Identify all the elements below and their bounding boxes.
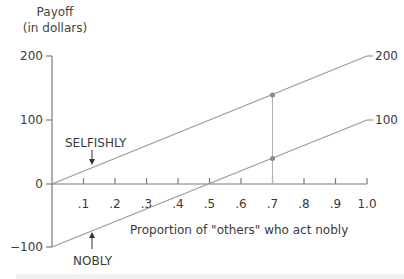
y-tick-label: 200: [20, 49, 43, 63]
x-tick-label: .8: [298, 197, 309, 211]
bottom-divider: [16, 274, 404, 279]
y-tick-label: 100: [20, 113, 43, 127]
nobly-point: [270, 156, 275, 161]
selfishly-label: SELFISHLY: [65, 136, 127, 150]
x-tick-label: .4: [172, 197, 183, 211]
nobly-end-label: 100: [375, 113, 398, 127]
x-tick-label: .7: [267, 197, 278, 211]
selfishly-point: [270, 93, 275, 98]
x-axis-title: Proportion of "others" who act nobly: [130, 223, 348, 237]
x-tick-label: .9: [330, 197, 341, 211]
chart-plot: 200 100 0 −100 .1 .2 .3 .4 .5 .6 .7 .8 .…: [0, 0, 404, 279]
selfishly-end-label: 200: [375, 49, 398, 63]
x-tick-label: 1.0: [357, 197, 376, 211]
x-tick-label: .6: [235, 197, 246, 211]
y-tick-label: 0: [35, 177, 43, 191]
x-ticks: [84, 178, 368, 184]
y-tick-label: −100: [10, 240, 43, 254]
nobly-label: NOBLY: [73, 254, 113, 268]
x-tick-label: .1: [78, 197, 89, 211]
selfishly-line: [52, 56, 367, 184]
x-tick-label: .5: [204, 197, 215, 211]
x-tick-label: .2: [109, 197, 120, 211]
